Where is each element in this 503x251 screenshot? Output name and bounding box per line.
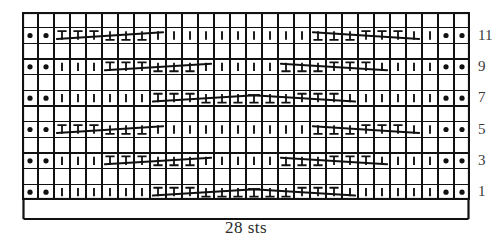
row-number-9: 9: [478, 59, 502, 74]
purl-dot: [459, 190, 464, 195]
purl-dot: [43, 33, 48, 38]
row-number-3: 3: [478, 153, 502, 168]
row-number-7: 7: [478, 90, 502, 105]
knitting-chart: 1197531 28 sts: [0, 0, 503, 251]
purl-dot: [27, 64, 32, 69]
row-number-11: 11: [478, 28, 502, 43]
bracket-path: [24, 199, 469, 219]
purl-dot: [43, 64, 48, 69]
stitch-grid: [22, 12, 470, 200]
purl-dot: [27, 158, 32, 163]
stitch-grid-svg: [22, 12, 470, 200]
purl-dot: [443, 127, 448, 132]
purl-dot: [459, 64, 464, 69]
purl-dot: [43, 96, 48, 101]
purl-dot: [459, 127, 464, 132]
purl-dot: [443, 33, 448, 38]
purl-dot: [43, 127, 48, 132]
purl-dot: [27, 190, 32, 195]
stitch-count-caption: 28 sts: [22, 218, 470, 237]
purl-dot: [459, 96, 464, 101]
purl-dot: [43, 190, 48, 195]
purl-dot: [43, 158, 48, 163]
row-number-5: 5: [478, 122, 502, 137]
row-number-1: 1: [478, 184, 502, 199]
purl-dot: [27, 33, 32, 38]
purl-dot: [27, 127, 32, 132]
purl-dot: [459, 33, 464, 38]
purl-dot: [443, 158, 448, 163]
purl-dot: [443, 190, 448, 195]
purl-dot: [443, 96, 448, 101]
purl-dot: [27, 96, 32, 101]
row-number-column: 1197531: [478, 12, 503, 200]
purl-dot: [459, 158, 464, 163]
purl-dot: [443, 64, 448, 69]
